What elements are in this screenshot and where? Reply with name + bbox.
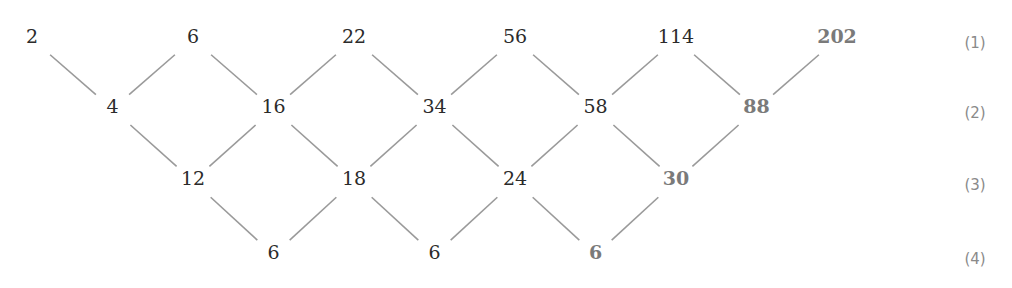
row-label: (2)	[964, 104, 985, 122]
table-value: 114	[658, 25, 694, 47]
edge-r1-c3-left	[533, 55, 579, 95]
edge-r3-c2-left	[533, 197, 580, 240]
row-label: (4)	[964, 250, 985, 268]
edges	[50, 55, 819, 240]
edge-r2-c2-right	[531, 125, 577, 166]
table-value: 6	[267, 241, 279, 263]
edge-r1-c2-left	[372, 55, 418, 95]
table-value: 4	[106, 95, 118, 117]
edge-r1-c1-left	[211, 55, 257, 95]
edge-r3-c2-right	[612, 197, 659, 240]
edge-r1-c0-right	[129, 55, 175, 95]
edge-r3-c1-left	[372, 197, 419, 240]
table-value: 6	[428, 241, 440, 263]
table-value: 58	[583, 95, 607, 117]
edge-r3-c0-right	[290, 197, 337, 240]
edge-r1-c0-left	[50, 55, 96, 95]
table-value: 56	[503, 25, 527, 47]
edge-r2-c0-right	[209, 125, 255, 166]
table-value: 12	[181, 167, 205, 189]
edge-r2-c2-left	[452, 125, 498, 166]
table-value: 22	[342, 25, 366, 47]
edge-r1-c3-right	[612, 55, 658, 95]
edge-r2-c1-right	[370, 125, 416, 166]
edge-r3-c0-left	[211, 197, 258, 240]
predicted-value: 88	[743, 95, 769, 117]
edge-r2-c3-right	[692, 125, 738, 166]
predicted-value: 30	[663, 167, 689, 189]
predicted-value: 202	[817, 25, 857, 47]
table-value: 24	[503, 167, 527, 189]
table-value: 18	[342, 167, 366, 189]
table-value: 2	[26, 25, 38, 47]
row-label: (3)	[964, 176, 985, 194]
edge-r1-c4-right	[773, 55, 819, 95]
table-value: 16	[261, 95, 285, 117]
edge-r2-c3-left	[613, 125, 659, 166]
table-value: 6	[187, 25, 199, 47]
edge-r2-c0-left	[130, 125, 176, 166]
edge-r3-c1-right	[451, 197, 498, 240]
edge-r2-c1-left	[291, 125, 337, 166]
difference-table-diagram: 262256114202(1)416345888(2)12182430(3)66…	[0, 0, 1012, 288]
row-label: (1)	[964, 34, 985, 52]
edge-r1-c4-left	[694, 55, 740, 95]
edge-r1-c1-right	[290, 55, 336, 95]
edge-r1-c2-right	[451, 55, 497, 95]
predicted-value: 6	[589, 241, 602, 263]
table-value: 34	[422, 95, 446, 117]
